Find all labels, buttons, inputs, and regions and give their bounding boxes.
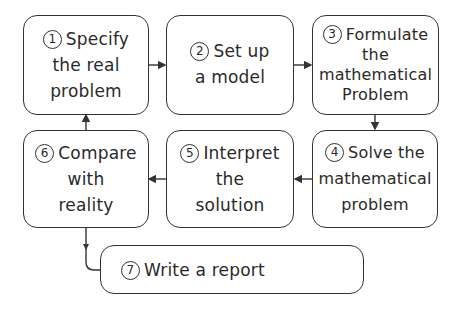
- step-5-line-1: Interpret: [203, 143, 279, 163]
- modelling-cycle-diagram: 1Specify the real problem 2Set up a mode…: [0, 0, 459, 311]
- step-7-box: 7Write a report: [100, 245, 364, 294]
- step-4-number: 4: [325, 143, 344, 162]
- step-7-number: 7: [121, 261, 140, 280]
- step-6-box: 6Compare with reality: [23, 130, 149, 228]
- step-3-line-3: mathematical: [319, 65, 432, 85]
- step-4-box: 4Solve the mathematical problem: [312, 130, 438, 228]
- step-4-line-1: Solve the: [348, 143, 425, 162]
- step-2-line-2: a model: [195, 64, 265, 90]
- step-1-line-3: problem: [50, 78, 122, 104]
- step-3-box: 3Formulate the mathematical Problem: [312, 15, 439, 115]
- step-3-line-2: the: [362, 45, 389, 65]
- step-6-line-1: Compare: [58, 143, 137, 163]
- step-5-box: 5Interpret the solution: [166, 130, 294, 228]
- step-5-line-3: solution: [196, 192, 265, 218]
- step-1-line-2: the real: [52, 52, 119, 78]
- step-2-box: 2Set up a model: [166, 15, 294, 115]
- step-4-line-3: problem: [341, 192, 409, 218]
- step-6-number: 6: [35, 144, 54, 163]
- step-4-line-2: mathematical: [318, 166, 431, 192]
- step-1-number: 1: [43, 30, 62, 49]
- step-1-line-1: Specify: [66, 29, 129, 49]
- step-2-line-1: Set up: [213, 41, 269, 61]
- step-6-line-2: with: [68, 166, 105, 192]
- step-3-line-4: Problem: [342, 85, 409, 105]
- step-5-number: 5: [180, 144, 199, 163]
- arrow-6-to-7: [86, 228, 100, 270]
- step-1-box: 1Specify the real problem: [23, 15, 149, 115]
- step-3-line-1: Formulate: [346, 25, 429, 44]
- step-5-line-2: the: [216, 166, 245, 192]
- step-2-number: 2: [190, 42, 209, 61]
- step-6-line-3: reality: [58, 192, 113, 218]
- step-7-line-1: Write a report: [144, 260, 265, 280]
- step-3-number: 3: [323, 25, 342, 44]
